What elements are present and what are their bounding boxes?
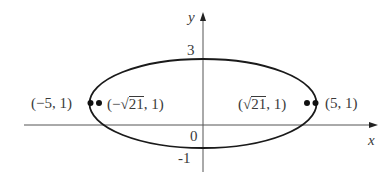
x-axis-arrow-icon [369,122,378,128]
right-vertex-point [313,100,319,106]
y-axis-label: y [188,10,195,25]
left-vertex-label: (−5, 1) [31,96,72,111]
right-vertex-label: (5, 1) [325,96,358,111]
x-axis-label: x [368,133,375,148]
origin-label: 0 [190,129,198,144]
right-focus-label: (√21, 1) [238,96,286,112]
left-vertex-point [88,100,94,106]
left-focus-label: (−√21, 1) [107,96,164,112]
left-focus-point [96,100,102,106]
right-focus-radicand: 21 [251,96,266,112]
sqrt-symbol: √21 [243,96,266,112]
right-focus-point [304,100,310,106]
left-focus-label-prefix: (− [107,96,120,112]
y-tick-3-label: 3 [187,43,195,58]
left-focus-label-suffix: , 1) [144,96,164,112]
left-focus-radicand: 21 [129,96,144,112]
sqrt-symbol: √21 [120,96,143,112]
y-tick-neg1-label: -1 [178,151,191,166]
right-focus-label-suffix: , 1) [266,96,286,112]
y-axis-arrow-icon [200,12,206,21]
